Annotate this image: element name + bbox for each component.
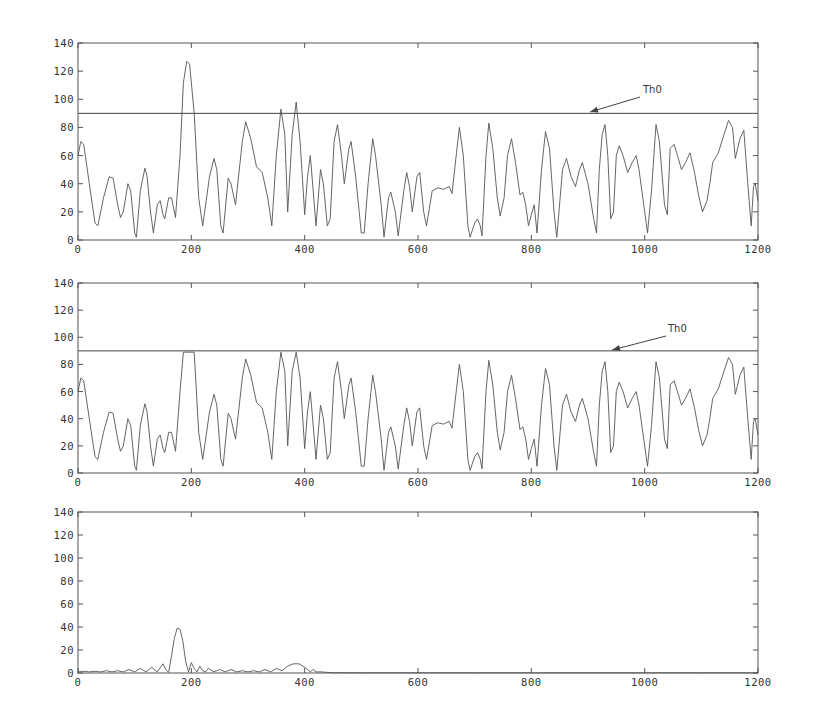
x-tick-label: 0 — [75, 243, 82, 255]
threshold-label: Th0 — [667, 323, 687, 334]
y-tick-label: 60 — [60, 150, 74, 162]
y-tick-label: 100 — [54, 552, 74, 564]
x-tick-label: 0 — [75, 676, 82, 688]
x-tick-label: 200 — [181, 243, 201, 255]
subplot-1: 020406080100120140020040060080010001200T… — [54, 37, 772, 255]
x-tick-label: 0 — [75, 476, 82, 488]
x-tick-label: 400 — [294, 243, 314, 255]
signal-line — [78, 352, 758, 470]
x-tick-label: 800 — [521, 676, 541, 688]
threshold-label: Th0 — [642, 84, 662, 95]
annotation-arrow — [612, 336, 666, 350]
x-tick-label: 1000 — [631, 243, 658, 255]
axes-frame — [78, 43, 758, 240]
x-tick-label: 1200 — [744, 476, 771, 488]
y-tick-label: 60 — [60, 598, 74, 610]
y-tick-label: 140 — [54, 506, 74, 518]
x-tick-label: 600 — [408, 476, 428, 488]
x-tick-label: 200 — [181, 676, 201, 688]
axes-frame — [78, 283, 758, 473]
x-tick-label: 600 — [408, 676, 428, 688]
y-tick-label: 120 — [54, 304, 74, 316]
y-tick-label: 80 — [60, 575, 74, 587]
y-tick-label: 80 — [60, 121, 74, 133]
y-tick-label: 0 — [67, 467, 74, 479]
figure: 020406080100120140020040060080010001200T… — [0, 0, 813, 718]
x-tick-label: 600 — [408, 243, 428, 255]
arrowhead-icon — [590, 107, 599, 113]
y-tick-label: 100 — [54, 93, 74, 105]
y-tick-label: 120 — [54, 529, 74, 541]
y-tick-label: 140 — [54, 37, 74, 49]
y-tick-label: 20 — [60, 440, 74, 452]
y-tick-label: 0 — [67, 234, 74, 246]
x-tick-label: 800 — [521, 243, 541, 255]
y-tick-label: 140 — [54, 277, 74, 289]
x-tick-label: 400 — [294, 476, 314, 488]
x-tick-label: 400 — [294, 676, 314, 688]
x-tick-label: 1000 — [631, 476, 658, 488]
y-tick-label: 40 — [60, 178, 74, 190]
arrowhead-icon — [612, 345, 620, 351]
y-tick-label: 100 — [54, 331, 74, 343]
y-tick-label: 60 — [60, 386, 74, 398]
subplot-3: 020406080100120140020040060080010001200 — [54, 506, 772, 688]
signal-line — [78, 628, 758, 673]
x-tick-label: 800 — [521, 476, 541, 488]
x-tick-label: 1000 — [631, 676, 658, 688]
subplot-2: 020406080100120140020040060080010001200T… — [54, 277, 772, 488]
y-tick-label: 80 — [60, 358, 74, 370]
y-tick-label: 0 — [67, 667, 74, 679]
y-tick-label: 40 — [60, 621, 74, 633]
x-tick-label: 1200 — [744, 676, 771, 688]
x-tick-label: 200 — [181, 476, 201, 488]
y-tick-label: 20 — [60, 644, 74, 656]
x-tick-label: 1200 — [744, 243, 771, 255]
y-tick-label: 40 — [60, 413, 74, 425]
y-tick-label: 20 — [60, 206, 74, 218]
y-tick-label: 120 — [54, 65, 74, 77]
axes-frame — [78, 512, 758, 673]
